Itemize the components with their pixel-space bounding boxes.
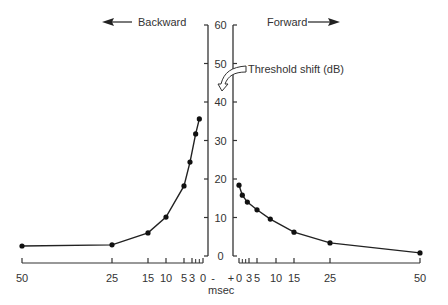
chart-canvas: Backward Forward 0102030405060 Threshold… [0,0,448,305]
data-point [254,207,259,212]
y-axis-left [204,25,208,256]
y-tick-label: 50 [214,58,226,70]
data-point [181,183,186,188]
y-tick-label: 10 [214,212,226,224]
backward-label: Backward [138,16,186,28]
y-tick-label: 20 [214,173,226,185]
y-tick-label: 40 [214,96,226,108]
y-tick-label: 0 [217,250,223,262]
series-backward [19,116,202,248]
x-tick-label: 5 [181,272,187,284]
data-point [268,216,273,221]
x-tick-label: 5 [254,272,260,284]
x-tick-label: 50 [16,272,28,284]
svg-text:+: + [228,272,234,284]
x-tick-label: 0 [236,272,242,284]
y-tick-labels: 0102030405060 [214,19,226,262]
data-point [145,230,150,235]
x-tick-label: 0 [200,272,206,284]
x-tick-label: 3 [189,272,195,284]
series-forward [236,183,422,256]
forward-arrow-icon [308,18,340,26]
x-axis-forward: +03510152550 [228,258,426,284]
x-tick-label: 10 [270,272,282,284]
data-point [327,240,332,245]
y-axis-label: Threshold shift (dB) [248,63,344,75]
svg-text:-: - [211,272,215,284]
backward-arrow-icon [102,18,132,26]
data-point [109,242,114,247]
x-tick-label: 25 [324,272,336,284]
x-axis-label: msec [208,284,235,296]
x-tick-label: 15 [288,272,300,284]
data-point [245,200,250,205]
y-tick-label: 30 [214,135,226,147]
data-point [291,230,296,235]
forward-label: Forward [267,16,307,28]
curved-arrow-icon [218,66,246,91]
data-point [187,159,192,164]
y-tick-label: 60 [214,19,226,31]
x-tick-label: 10 [160,272,172,284]
x-tick-label: 3 [246,272,252,284]
data-point [19,243,24,248]
data-point [193,131,198,136]
x-tick-label: 50 [414,272,426,284]
data-point [163,215,168,220]
data-point [197,116,202,121]
data-point [417,250,422,255]
x-tick-label: 15 [142,272,154,284]
data-point [240,193,245,198]
x-tick-label: 25 [106,272,118,284]
data-point [236,183,241,188]
y-axis-right [233,25,237,256]
x-axis-backward: 50251510530- [16,258,215,284]
